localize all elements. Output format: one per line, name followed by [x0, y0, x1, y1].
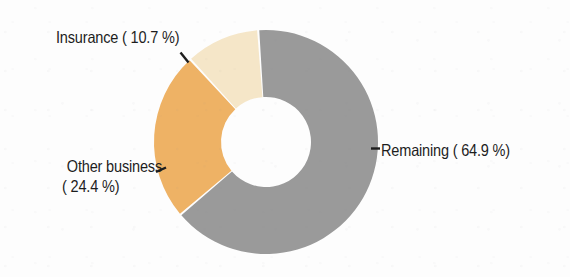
slice-label-other-business: Other business ( 24.4 %) [34, 156, 162, 196]
donut-chart: Insurance ( 10.7 %) Remaining ( 64.9 %) … [0, 0, 570, 277]
donut-slice-group [154, 30, 378, 254]
slice-label-other-business-line1: Other business [67, 157, 162, 175]
leader-line-insurance [181, 53, 189, 63]
slice-label-other-business-line2: ( 24.4 %) [34, 176, 162, 196]
slice-label-insurance: Insurance ( 10.7 %) [56, 27, 179, 47]
slice-label-remaining: Remaining ( 64.9 %) [381, 140, 510, 160]
